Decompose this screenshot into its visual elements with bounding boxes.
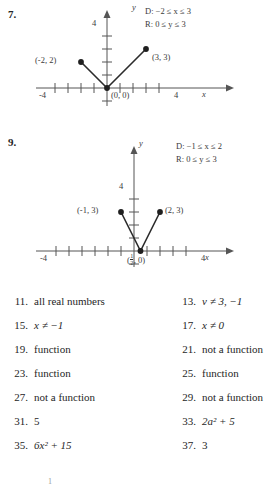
answer-number-17: 17. xyxy=(176,319,196,331)
y-axis-arrow-7 xyxy=(104,10,111,18)
domain-annotation-7: D: −2 ≤ x ≤ 3 xyxy=(145,6,191,16)
x-tick-label-9-neg4: -4 xyxy=(40,253,47,263)
axes-9 xyxy=(36,150,226,267)
answer-row: 27. not a function 29. not a function xyxy=(0,391,276,415)
data-point-9-c xyxy=(157,209,163,215)
answer-row: 23. function 25. function xyxy=(0,367,276,391)
x-axis-label-7: x xyxy=(202,89,206,99)
x-axis-arrow-9 xyxy=(226,248,234,255)
answer-text-31: 5 xyxy=(34,415,40,427)
answer-text-29: not a function xyxy=(202,391,263,403)
point-label-9-a: (-1, 3) xyxy=(77,205,98,215)
answer-number-15: 15. xyxy=(8,319,28,331)
data-point-7-c xyxy=(143,46,149,52)
problem-number-7: 7. xyxy=(8,8,16,20)
answer-text-17: x ≠ 0 xyxy=(202,319,224,331)
answer-text-27: not a function xyxy=(34,391,95,403)
answer-row: 31. 5 33. 2a² + 5 xyxy=(0,415,276,439)
v-curve-7 xyxy=(81,49,146,88)
answer-number-37: 37. xyxy=(176,439,196,451)
answer-number-23: 23. xyxy=(8,367,28,379)
answer-number-19: 19. xyxy=(8,343,28,355)
data-point-7-a xyxy=(78,59,84,65)
answer-list: 11. all real numbers 13. v ≠ 3, −1 15. x… xyxy=(0,295,276,463)
graph-figure-9: y x -4 4 4 (-1, 3) (2, 3) (12, 0) D: −1 … xyxy=(30,128,245,268)
answer-text-33: 2a² + 5 xyxy=(202,415,235,427)
v-curve-9 xyxy=(121,212,160,251)
answer-number-11: 11. xyxy=(8,295,28,307)
answer-text-13: v ≠ 3, −1 xyxy=(202,295,242,307)
point-label-9-b: (12, 0) xyxy=(127,253,145,266)
x-axis-label-9: x xyxy=(205,252,209,262)
answer-number-13: 13. xyxy=(176,295,196,307)
answer-row: 11. all real numbers 13. v ≠ 3, −1 xyxy=(0,295,276,319)
range-annotation-7: R: 0 ≤ y ≤ 3 xyxy=(145,19,186,29)
point-label-7-a: (-2, 2) xyxy=(35,55,56,65)
answer-number-35: 35. xyxy=(8,439,28,451)
answer-number-29: 29. xyxy=(176,391,196,403)
answer-text-21: not a function xyxy=(202,343,263,355)
graph-svg-7 xyxy=(30,2,245,110)
axes-7 xyxy=(36,14,226,106)
y-axis-label-7: y xyxy=(132,2,136,12)
answer-text-37: 3 xyxy=(202,439,208,451)
x-tick-label-9-pos4: 4 xyxy=(201,253,205,263)
y-axis-arrow-9 xyxy=(131,146,138,154)
page-folio: 1 xyxy=(48,477,52,486)
answer-text-15: x ≠ −1 xyxy=(34,319,63,331)
y-tick-label-7-pos4: 4 xyxy=(92,18,96,28)
x-axis-arrow-7 xyxy=(226,85,234,92)
answer-number-31: 31. xyxy=(8,415,28,427)
y-tick-label-9-pos4: 4 xyxy=(119,181,123,191)
answer-row: 19. function 21. not a function xyxy=(0,343,276,367)
answer-number-21: 21. xyxy=(176,343,196,355)
answer-row: 15. x ≠ −1 17. x ≠ 0 xyxy=(0,319,276,343)
x-tick-label-7-neg4: -4 xyxy=(39,90,46,100)
answer-text-25: function xyxy=(202,367,239,379)
answer-number-27: 27. xyxy=(8,391,28,403)
answer-number-33: 33. xyxy=(176,415,196,427)
x-tick-label-7-pos4: 4 xyxy=(174,90,178,100)
y-axis-label-9: y xyxy=(139,138,143,148)
answer-number-25: 25. xyxy=(176,367,196,379)
graph-figure-7: y x -4 4 4 (-2, 2) (0, 0) (3, 3) D: −2 ≤… xyxy=(30,2,245,110)
vertex-suffix: , 0) xyxy=(134,255,145,265)
answer-text-23: function xyxy=(34,367,71,379)
answer-text-11: all real numbers xyxy=(34,295,105,307)
answer-row: 35. 6x² + 15 37. 3 xyxy=(0,439,276,463)
answer-text-19: function xyxy=(34,343,71,355)
data-point-7-b xyxy=(104,85,110,91)
range-annotation-9: R: 0 ≤ y ≤ 3 xyxy=(176,154,217,164)
point-label-7-c: (3, 3) xyxy=(152,52,170,62)
data-point-9-a xyxy=(118,209,124,215)
domain-annotation-9: D: −1 ≤ x ≤ 2 xyxy=(176,141,222,151)
point-label-9-c: (2, 3) xyxy=(165,205,183,215)
answer-text-35: 6x² + 15 xyxy=(34,439,72,451)
problem-number-9: 9. xyxy=(8,136,16,148)
point-label-7-b: (0, 0) xyxy=(111,90,129,100)
answer-key-page: 7. xyxy=(0,0,276,489)
